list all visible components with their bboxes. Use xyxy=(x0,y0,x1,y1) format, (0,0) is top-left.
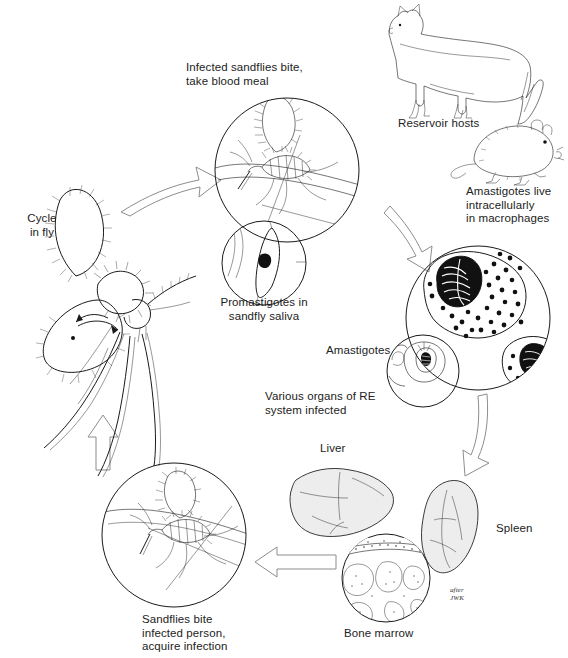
figure-promastigote-inset xyxy=(222,210,312,310)
arrow-organs-to-sandfly xyxy=(255,547,336,577)
label-infected-sandflies-bite: Infected sandflies bite, take blood meal xyxy=(186,61,303,88)
figure-macrophage-detail-cell xyxy=(387,335,459,407)
signature-artist-initials: JWK xyxy=(450,594,464,602)
diagram-artwork xyxy=(0,0,568,658)
leishmaniasis-lifecycle-diagram: Infected sandflies bite, take blood meal… xyxy=(0,0,568,658)
figure-infected-macrophage xyxy=(406,246,566,390)
arrow-bottom-to-fly xyxy=(88,415,118,470)
figure-infected-sandfly-bite xyxy=(215,90,362,242)
label-bone-marrow: Bone marrow xyxy=(344,627,414,641)
label-promastigotes-in-sandfly-saliva: Promastigotes in sandfly saliva xyxy=(194,296,334,323)
label-spleen: Spleen xyxy=(496,522,532,536)
arrow-macrophage-to-organs xyxy=(463,394,489,476)
arrow-fly-to-bite xyxy=(121,167,221,216)
figure-liver xyxy=(290,468,393,536)
figure-reservoir-host-dog xyxy=(389,4,543,124)
label-amastigotes: Amastigotes xyxy=(326,344,390,358)
figure-spleen xyxy=(421,480,478,572)
label-cycle-in-fly: Cycle in fly xyxy=(14,212,70,239)
figure-sandfly-bites-person xyxy=(102,463,250,607)
label-amastigotes-live-intracellularly: Amastigotes live intracellularly in macr… xyxy=(466,185,551,226)
label-various-organs-re-system: Various organs of RE system infected xyxy=(265,390,375,417)
arrow-bite-to-macrophage xyxy=(384,206,432,272)
signature-after: after xyxy=(450,586,464,594)
figure-bone-marrow xyxy=(342,534,432,624)
label-liver: Liver xyxy=(320,442,345,456)
label-reservoir-hosts: Reservoir hosts xyxy=(398,117,479,131)
label-sandflies-bite-infected-person: Sandflies bite infected person, acquire … xyxy=(142,613,227,654)
